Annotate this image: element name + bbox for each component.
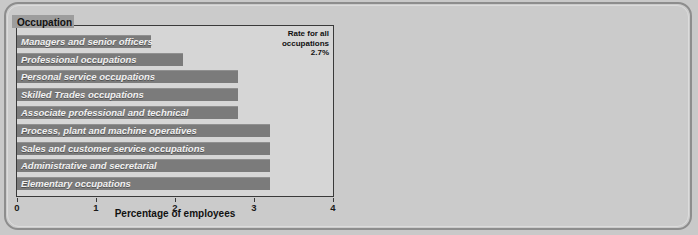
bar-row: Process, plant and machine operatives	[17, 124, 333, 137]
bar-label-managers-and-senior-officers: Managers and senior officers	[21, 35, 153, 48]
bar-row: Skilled Trades occupations	[17, 88, 333, 101]
bar-row: Administrative and secretarial	[17, 159, 333, 172]
bar-label-associate-professional-and-technical: Associate professional and technical	[21, 106, 188, 119]
bar-label-sales-and-customer-service-occupations: Sales and customer service occupations	[21, 142, 205, 155]
x-axis-occupation: 01234	[16, 198, 334, 208]
rate-annotation-line-2: occupations	[282, 39, 329, 49]
bar-label-process-plant-and-machine-operatives: Process, plant and machine operatives	[21, 124, 197, 137]
figure-container: Occupation Managers and senior officersP…	[0, 0, 698, 235]
bar-row: Personal service occupations	[17, 70, 333, 83]
rate-annotation-occupation: Rate for all occupations 2.7%	[282, 29, 329, 58]
x-axis-title-occupation: Percentage of employees	[16, 208, 334, 219]
bar-label-administrative-and-secretarial: Administrative and secretarial	[21, 159, 157, 172]
bar-row: Elementary occupations	[17, 177, 333, 190]
chart-panel-occupation: Occupation Managers and senior officersP…	[0, 0, 349, 235]
rate-annotation-line-1: Rate for all	[282, 29, 329, 39]
bar-label-skilled-trades-occupations: Skilled Trades occupations	[21, 88, 144, 101]
bar-label-professional-occupations: Professional occupations	[21, 53, 137, 66]
bar-label-elementary-occupations: Elementary occupations	[21, 177, 131, 190]
panel-title-occupation: Occupation	[12, 15, 74, 28]
bar-row: Associate professional and technical	[17, 106, 333, 119]
plot-area-occupation: Managers and senior officersProfessional…	[16, 25, 334, 197]
bar-label-personal-service-occupations: Personal service occupations	[21, 70, 155, 83]
chart-panel-industry: Industry Other servicesTransport and com…	[349, 0, 698, 235]
rate-annotation-value: 2.7%	[282, 48, 329, 58]
bar-row: Sales and customer service occupations	[17, 142, 333, 155]
